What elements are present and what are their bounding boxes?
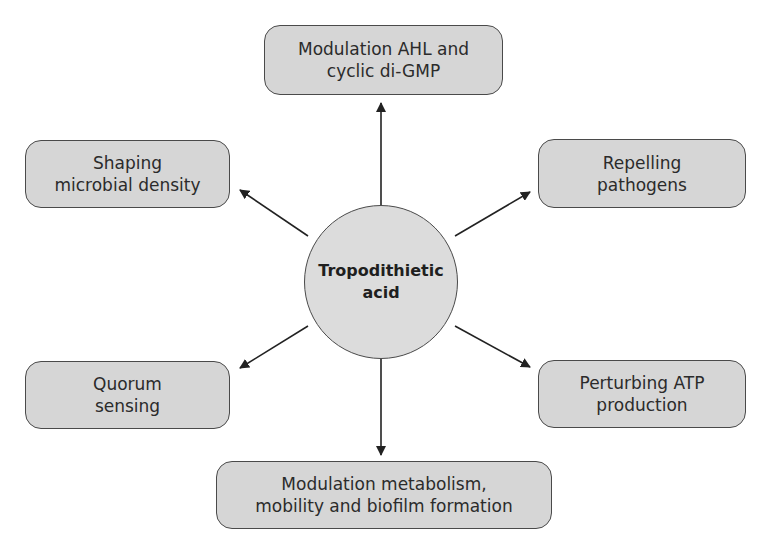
node-label-line2: sensing: [95, 395, 160, 417]
node-label-line1: Modulation metabolism,: [281, 473, 486, 495]
node-modulation-metabolism: Modulation metabolism, mobility and biof…: [216, 461, 552, 529]
center-label-line2: acid: [362, 282, 399, 304]
node-label-line2: cyclic di-GMP: [327, 60, 440, 82]
tda-effects-diagram: Modulation AHL and cyclic di-GMP Shaping…: [0, 0, 768, 560]
node-quorum-sensing: Quorum sensing: [25, 361, 230, 429]
node-label-line2: production: [596, 394, 687, 416]
node-label-line1: Quorum: [93, 373, 162, 395]
node-modulation-ahl: Modulation AHL and cyclic di-GMP: [264, 25, 503, 95]
node-label-line1: Modulation AHL and: [298, 38, 469, 60]
arrow-to-lower-left: [240, 326, 308, 368]
node-shaping-microbial-density: Shaping microbial density: [25, 140, 230, 208]
arrow-to-lower-right: [455, 326, 530, 367]
node-label-line2: pathogens: [597, 174, 687, 196]
arrow-to-upper-right: [455, 192, 530, 236]
node-repelling-pathogens: Repelling pathogens: [538, 139, 746, 208]
node-label-line1: Perturbing ATP: [580, 372, 705, 394]
node-label-line2: microbial density: [54, 174, 200, 196]
node-label-line1: Repelling: [603, 152, 682, 174]
arrow-to-upper-left: [240, 190, 308, 236]
node-label-line1: Shaping: [93, 152, 162, 174]
node-label-line2: mobility and biofilm formation: [255, 495, 512, 517]
center-label-line1: Tropodithietic: [318, 260, 443, 282]
node-perturbing-atp: Perturbing ATP production: [538, 360, 746, 428]
center-node-tropodithietic-acid: Tropodithietic acid: [304, 205, 458, 359]
